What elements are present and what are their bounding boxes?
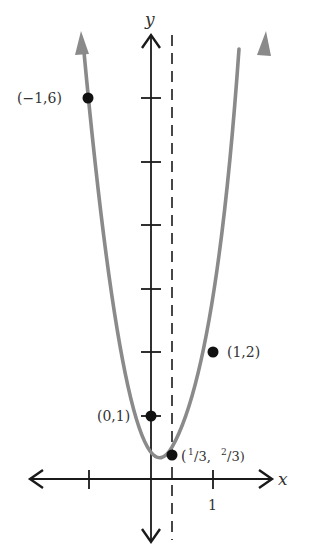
point-label-1-2: (1,2)	[227, 344, 260, 360]
svg-text:(: (	[181, 448, 186, 464]
point-vertex	[167, 450, 178, 461]
y-axis-label: y	[144, 9, 155, 29]
point-neg1-6	[83, 93, 94, 104]
svg-text:/3): /3)	[227, 449, 245, 464]
point-1-2	[208, 347, 219, 358]
svg-text:2: 2	[221, 447, 227, 457]
point-label-0-1: (0,1)	[97, 408, 130, 424]
x-axis-label: x	[278, 469, 288, 489]
curve-right-arrow-icon	[257, 31, 271, 56]
svg-text:/3,: /3,	[194, 449, 211, 464]
parabola-graph: y x 1 (−1,6) (0,1) (1,2) ( 1 /3, 2 /3)	[0, 0, 309, 559]
y-axis	[141, 35, 161, 542]
point-0-1	[146, 411, 157, 422]
x-tick-label-1: 1	[208, 497, 217, 513]
curve-left-arrow-icon	[75, 31, 89, 55]
point-label-vertex: ( 1 /3, 2 /3)	[181, 447, 245, 464]
svg-text:1: 1	[188, 447, 194, 457]
parabola-curve	[84, 49, 239, 458]
point-label-neg1-6: (−1,6)	[17, 90, 62, 106]
